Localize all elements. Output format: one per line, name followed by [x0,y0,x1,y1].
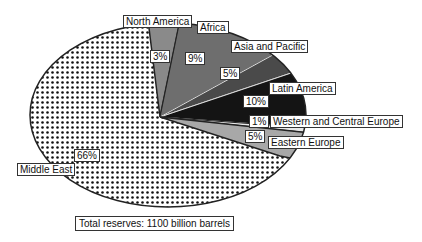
total-reserves-note: Total reserves: 1100 billion barrels [75,216,234,231]
label-eastern-europe: Eastern Europe [268,136,344,149]
pct-western-central-europe: 1% [249,115,269,128]
pct-north-america: 3% [150,50,170,63]
pct-latin-america: 10% [243,95,269,108]
pct-middle-east: 66% [74,149,100,162]
label-western-central-europe: Western and Central Europe [270,115,403,128]
label-latin-america: Latin America [269,82,336,95]
pct-asia-pacific: 5% [220,67,240,80]
label-africa: Africa [197,21,229,34]
pct-eastern-europe: 5% [245,130,265,143]
pct-africa: 9% [185,52,205,65]
label-north-america: North America [123,15,192,28]
label-asia-pacific: Asia and Pacific [231,40,308,53]
label-middle-east: Middle East [17,163,75,176]
